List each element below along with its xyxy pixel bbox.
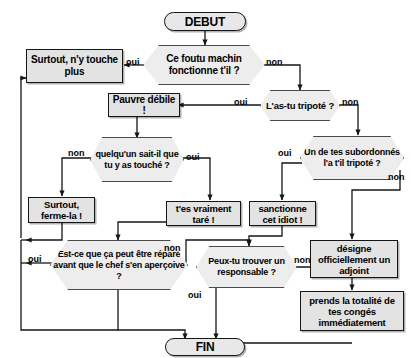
node-tes-vraiment-tare[interactable]: t'es vraiment taré ! [166, 201, 241, 226]
node-question-quelquun-sait[interactable]: quelqu'un sait-il que tu y as touché ? [90, 137, 184, 182]
edge-label-repare-non: non [164, 243, 181, 253]
node-sanctionne-cet-idiot-label: sanctionne cet idiot ! [250, 203, 315, 225]
flowchart-canvas: DEBUT Ce foutu machin fonctionne t'il ? … [0, 0, 411, 358]
edge-label-subordonnes-non: non [388, 172, 405, 182]
node-question-fonctionne[interactable]: Ce foutu machin fonctionne t'il ? [143, 45, 265, 85]
edge-label-responsable-oui: oui [188, 290, 202, 300]
node-start-label: DEBUT [165, 15, 245, 29]
node-surtout-ferme-la[interactable]: Surtout, ferme-la ! [28, 197, 95, 223]
edge-repare-to-fin [118, 287, 185, 339]
node-prends-conges-label: prends la totalité de tes congés immédia… [301, 295, 403, 328]
edge-label-fonctionne-oui: oui [126, 57, 140, 67]
edge-label-subordonnes-oui: oui [278, 148, 292, 158]
node-question-astu-tripote-label: L'as-tu tripoté ? [261, 100, 339, 111]
node-question-astu-tripote[interactable]: L'as-tu tripoté ? [260, 90, 340, 121]
edge-quelquun-oui [182, 158, 210, 200]
edge-label-responsable-non: non [294, 255, 311, 265]
edge-quelquun-non [62, 158, 92, 196]
edge-label-quelquun-oui: oui [186, 152, 200, 162]
node-designe-adjoint-label: désigne officiellement un adjoint [311, 243, 397, 276]
node-question-responsable[interactable]: Peux-tu trouver un responsable ? [196, 246, 297, 288]
node-pauvre-debile[interactable]: Pauvre débile ! [108, 93, 180, 117]
node-question-subordonnes-label: Un de tes subordonnés l'a t'il tripoté ? [301, 147, 403, 169]
edge-label-repare-oui: oui [28, 254, 42, 264]
edge-astu-non [338, 105, 358, 135]
node-prends-conges[interactable]: prends la totalité de tes congés immédia… [300, 291, 404, 331]
edge-label-quelquun-non: non [68, 148, 85, 158]
node-designe-adjoint[interactable]: désigne officiellement un adjoint [310, 240, 398, 278]
node-surtout-ny-touche-plus-label: Surtout, n'y touche plus [27, 54, 122, 78]
edge-fonctionne-non [263, 65, 300, 90]
edge-conges-to-fin [232, 339, 352, 343]
node-end-label: FIN [166, 340, 244, 354]
node-start[interactable]: DEBUT [164, 12, 246, 31]
node-surtout-ferme-la-label: Surtout, ferme-la ! [29, 199, 94, 221]
node-end[interactable]: FIN [165, 338, 245, 356]
node-tes-vraiment-tare-label: t'es vraiment taré ! [167, 203, 240, 225]
edge-fermela-to-left-bus [26, 222, 62, 240]
node-question-responsable-label: Peux-tu trouver un responsable ? [197, 256, 296, 278]
edge-label-astu-non: non [342, 97, 359, 107]
node-question-repare-label: Est-ce que ça peut être réparé avant que… [51, 249, 187, 282]
edge-label-fonctionne-non: non [266, 57, 283, 67]
node-question-fonctionne-label: Ce foutu machin fonctionne t'il ? [144, 53, 264, 77]
edge-subordonnes-oui [282, 163, 302, 200]
node-pauvre-debile-label: Pauvre débile ! [109, 94, 179, 116]
edge-label-astu-oui: oui [234, 97, 248, 107]
node-question-quelquun-sait-label: quelqu'un sait-il que tu y as touché ? [91, 149, 183, 171]
node-surtout-ny-touche-plus[interactable]: Surtout, n'y touche plus [26, 49, 123, 83]
edge-left-bus-to-surtout [21, 78, 26, 238]
node-sanctionne-cet-idiot[interactable]: sanctionne cet idiot ! [249, 201, 316, 226]
